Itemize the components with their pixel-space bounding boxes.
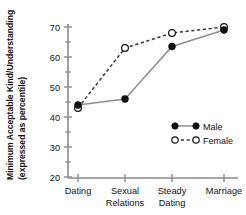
x-label-steady-line2: Dating [159,198,186,208]
y-axis-title-line1: Minimum Acceptable Kind/Understanding [5,10,15,180]
chart-legend: Male Female [172,122,233,146]
legend-marker-male-right [193,123,199,129]
y-tick-label-30: 30 [50,143,60,153]
datapoint-male-marriage [221,27,228,34]
y-tick-label-20: 20 [50,173,60,183]
datapoint-female-steady-dating [169,30,176,37]
x-label-sexual-line2: Relations [106,198,145,208]
x-label-marriage: Marriage [206,186,242,196]
chart-svg: Minimum Acceptable Kind/Understanding (e… [0,0,246,215]
y-axis-title-line2: (expressed as percentile) [17,77,27,180]
legend-marker-female-right [193,137,199,143]
x-label-sexual-line1: Sexual [111,186,139,196]
x-axis-labels: Dating Sexual Relations Steady Dating Ma… [65,186,242,208]
legend-item-female: Female [172,136,233,146]
y-tick-label-50: 50 [50,83,60,93]
legend-item-male: Male [172,122,223,132]
x-label-dating: Dating [65,186,92,196]
line-chart: Minimum Acceptable Kind/Understanding (e… [0,0,246,215]
datapoint-male-dating [75,102,82,109]
y-tick-label-60: 60 [50,53,60,63]
x-label-steady-line1: Steady [158,186,187,196]
series-line-male [78,30,224,105]
datapoint-female-sexual-relations [122,45,129,52]
legend-label-male: Male [203,122,223,132]
legend-marker-female-left [172,137,178,143]
y-tick-label-40: 40 [50,113,60,123]
datapoint-male-steady-dating [169,43,176,50]
y-tick-label-70: 70 [50,23,60,33]
series-markers-male [75,27,228,109]
y-axis-title: Minimum Acceptable Kind/Understanding (e… [5,10,27,180]
legend-label-female: Female [203,136,233,146]
datapoint-male-sexual-relations [122,96,129,103]
series-line-female [78,27,224,108]
legend-marker-male-left [172,123,178,129]
